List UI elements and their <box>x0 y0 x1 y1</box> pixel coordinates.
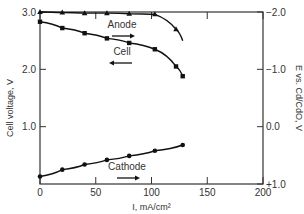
x-axis-title: I, mA/cm² <box>132 202 171 212</box>
x-tick-label: 150 <box>199 187 216 198</box>
square-marker <box>174 64 178 68</box>
label-cell: Cell <box>113 46 130 57</box>
square-marker <box>153 47 157 51</box>
x-tick-label: 0 <box>37 187 43 198</box>
y-right-tick-label: 0.0 <box>266 121 280 132</box>
circle-marker <box>60 167 65 172</box>
x-tick-label: 100 <box>143 187 160 198</box>
y-tick-label: 2.0 <box>22 64 36 75</box>
circle-marker <box>127 154 132 159</box>
square-marker <box>60 26 64 30</box>
label-anode: Anode <box>108 19 137 30</box>
y-right-tick-label: −1.0 <box>266 64 286 75</box>
y-right-axis-title: E vs. Cd/CdO, V <box>294 65 304 131</box>
square-marker <box>181 74 185 78</box>
circle-marker <box>38 174 43 179</box>
circle-marker <box>153 148 158 153</box>
label-cathode: Cathode <box>108 161 146 172</box>
square-marker <box>127 41 131 45</box>
arrowhead-right-icon <box>135 176 140 181</box>
y-tick-label: 1.0 <box>22 121 36 132</box>
y-right-tick-label: −2.0 <box>266 7 286 18</box>
y-axis-title: Cell voltage, V <box>5 79 15 137</box>
arrowhead-left-icon <box>109 61 114 66</box>
square-marker <box>82 31 86 35</box>
y-right-tick-label: +1.0 <box>266 179 286 190</box>
square-marker <box>105 36 109 40</box>
polarization-chart: 0501001502001.02.03.0+1.00.0−1.0−2.0I, m… <box>0 0 304 214</box>
y-tick-label: 3.0 <box>22 7 36 18</box>
circle-marker <box>180 143 185 148</box>
square-marker <box>38 20 42 24</box>
x-tick-label: 50 <box>90 187 102 198</box>
plot-border <box>40 12 263 184</box>
axes-frame: 0501001502001.02.03.0+1.00.0−1.0−2.0I, m… <box>5 7 304 213</box>
circle-marker <box>82 162 87 167</box>
data-series <box>37 9 185 179</box>
arrowhead-right-icon <box>130 34 135 39</box>
